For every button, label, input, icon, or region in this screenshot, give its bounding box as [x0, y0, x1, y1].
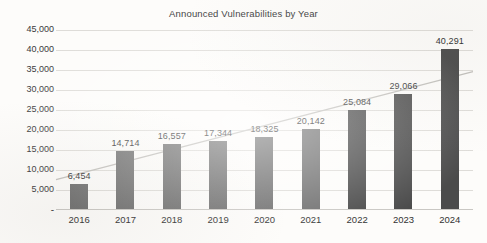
bar — [116, 151, 134, 210]
bar-column: 6,4542016 — [56, 30, 102, 210]
y-axis-tick-label: 5,000 — [0, 184, 54, 194]
x-axis-tick-label: 2024 — [439, 214, 460, 225]
chart-title: Announced Vulnerabilities by Year — [0, 8, 487, 19]
x-axis-tick-label: 2021 — [300, 214, 321, 225]
y-axis-tick-label: 10,000 — [0, 164, 54, 174]
bar-value-label: 17,344 — [204, 128, 232, 138]
bar — [163, 144, 181, 210]
y-axis-tick-label: 15,000 — [0, 144, 54, 154]
bar-value-label: 40,291 — [436, 36, 464, 46]
x-axis-tick-label: 2022 — [347, 214, 368, 225]
bar — [70, 184, 88, 210]
y-axis-tick-label: 40,000 — [0, 44, 54, 54]
x-axis-tick-label: 2019 — [208, 214, 229, 225]
chart-container: Announced Vulnerabilities by Year -5,000… — [0, 0, 487, 243]
x-axis-tick-label: 2016 — [69, 214, 90, 225]
bar-column: 18,3252020 — [241, 30, 287, 210]
bar-value-label: 20,142 — [297, 116, 325, 126]
bar — [209, 141, 227, 210]
y-axis-tick-label: - — [0, 204, 54, 215]
bar-value-label: 29,066 — [389, 81, 417, 91]
bar-column: 40,2912024 — [427, 30, 473, 210]
plot-area: -5,00010,00015,00020,00025,00030,00035,0… — [56, 30, 473, 210]
bar-value-label: 16,557 — [158, 131, 186, 141]
x-axis-tick-label: 2017 — [115, 214, 136, 225]
bar — [441, 49, 459, 210]
x-axis-tick-label: 2018 — [161, 214, 182, 225]
y-axis-tick-label: 45,000 — [0, 24, 54, 34]
bar — [394, 94, 412, 210]
bar-column: 14,7142017 — [102, 30, 148, 210]
y-axis-tick-label: 20,000 — [0, 124, 54, 134]
bar — [348, 110, 366, 210]
bar-value-label: 6,454 — [68, 171, 91, 181]
x-axis-tick-label: 2023 — [393, 214, 414, 225]
bar-column: 17,3442019 — [195, 30, 241, 210]
x-axis-line — [56, 209, 473, 210]
bar-column: 29,0662023 — [380, 30, 426, 210]
y-axis-tick-label: 35,000 — [0, 64, 54, 74]
bar — [302, 129, 320, 210]
y-axis-tick-label: 25,000 — [0, 104, 54, 114]
bars-group: 6,454201614,714201716,557201817,34420191… — [56, 30, 473, 210]
x-axis-tick-label: 2020 — [254, 214, 275, 225]
y-axis-tick-label: 30,000 — [0, 84, 54, 94]
bar — [255, 137, 273, 210]
bar-value-label: 18,325 — [250, 124, 278, 134]
bar-value-label: 25,084 — [343, 97, 371, 107]
bar-column: 25,0842022 — [334, 30, 380, 210]
bar-column: 16,5572018 — [149, 30, 195, 210]
bar-column: 20,1422021 — [288, 30, 334, 210]
bar-value-label: 14,714 — [111, 138, 139, 148]
